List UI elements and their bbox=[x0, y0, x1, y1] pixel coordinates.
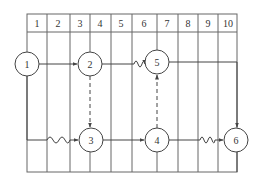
svg-text:6: 6 bbox=[234, 135, 239, 146]
col-label: 1 bbox=[35, 18, 40, 29]
column-header-labels: 1 2 3 4 5 6 7 8 9 10 bbox=[35, 18, 234, 29]
col-label: 5 bbox=[119, 18, 124, 29]
col-label: 9 bbox=[206, 18, 211, 29]
node-2: 2 bbox=[78, 52, 102, 76]
network-diagram: 1 2 3 4 5 6 7 8 9 10 1 2 5 3 4 6 bbox=[0, 0, 255, 184]
edge-2-5-wavy bbox=[102, 61, 145, 67]
node-4: 4 bbox=[145, 128, 169, 152]
col-label: 8 bbox=[186, 18, 191, 29]
col-label: 6 bbox=[142, 18, 147, 29]
node-3: 3 bbox=[79, 128, 103, 152]
node-1: 1 bbox=[15, 52, 39, 76]
col-label: 10 bbox=[223, 18, 233, 29]
node-5: 5 bbox=[145, 50, 169, 74]
svg-text:1: 1 bbox=[25, 59, 30, 70]
node-6: 6 bbox=[224, 128, 248, 152]
time-grid bbox=[27, 14, 237, 172]
col-label: 2 bbox=[56, 18, 61, 29]
svg-text:2: 2 bbox=[88, 59, 93, 70]
svg-text:4: 4 bbox=[155, 135, 160, 146]
col-label: 4 bbox=[98, 18, 103, 29]
edge-1-3-wavy bbox=[27, 76, 47, 140]
svg-text:3: 3 bbox=[89, 135, 94, 146]
svg-text:5: 5 bbox=[155, 57, 160, 68]
col-label: 3 bbox=[78, 18, 83, 29]
edge-5-6 bbox=[169, 62, 237, 127]
col-label: 7 bbox=[165, 18, 170, 29]
edge-4-6-wavy bbox=[169, 137, 223, 143]
